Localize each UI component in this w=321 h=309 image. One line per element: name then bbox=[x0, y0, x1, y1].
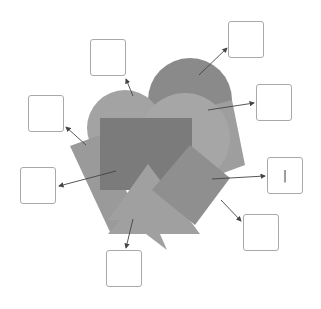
label-box-g[interactable] bbox=[243, 214, 279, 251]
label-box-b[interactable] bbox=[28, 95, 64, 132]
label-box-h[interactable] bbox=[106, 250, 142, 287]
arrow-G bbox=[221, 200, 241, 221]
label-box-a[interactable] bbox=[90, 39, 126, 76]
label-box-f[interactable]: | bbox=[267, 157, 303, 194]
diagram-canvas bbox=[0, 0, 321, 309]
label-box-c[interactable] bbox=[20, 167, 56, 204]
label-box-e[interactable] bbox=[256, 84, 292, 121]
arrow-B bbox=[66, 127, 86, 145]
label-box-d[interactable] bbox=[228, 21, 264, 58]
